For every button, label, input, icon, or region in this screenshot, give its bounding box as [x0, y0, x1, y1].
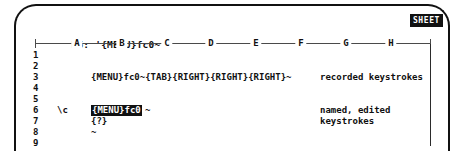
- cell-b7[interactable]: {?}: [91, 116, 107, 127]
- column-header-a[interactable]: A: [71, 37, 82, 49]
- cell-b8[interactable]: ~: [91, 127, 96, 138]
- annotation-named-edited: named, edited: [320, 105, 390, 116]
- column-header-h[interactable]: H: [385, 37, 396, 49]
- column-header-d[interactable]: D: [205, 37, 216, 49]
- worksheet-grid[interactable]: A B C D E F G H 1 2 3 4 5 6 7 8 9 {MENU}…: [33, 38, 433, 146]
- annotation-recorded-keystrokes: recorded keystrokes: [320, 72, 423, 83]
- column-header-b[interactable]: B: [116, 37, 127, 49]
- column-header-e[interactable]: E: [250, 37, 261, 49]
- cell-b6-selected[interactable]: {MENU}fc0: [91, 105, 142, 116]
- cell-b3[interactable]: {MENU}fc0~{TAB}{RIGHT}{RIGHT}{RIGHT}~: [91, 72, 291, 83]
- column-header-row: A B C D E F G H: [33, 38, 433, 50]
- column-header-left-tick: [35, 39, 36, 48]
- worksheet-cells: {MENU}fc0~{TAB}{RIGHT}{RIGHT}{RIGHT}~ \c…: [33, 50, 433, 146]
- control-panel: B6: '{MENU}fc0~: [33, 14, 393, 27]
- mode-indicator-badge: SHEET: [410, 14, 443, 27]
- column-header-g[interactable]: G: [340, 37, 351, 49]
- spreadsheet-screen: B6: '{MENU}fc0~ SHEET A B C D E F G H 1 …: [0, 0, 464, 151]
- cell-a6[interactable]: \c: [57, 105, 68, 116]
- cell-b6-text: {MENU}fc0: [92, 105, 141, 115]
- annotation-keystrokes: keystrokes: [320, 116, 374, 127]
- column-header-rule: [35, 43, 431, 44]
- column-header-f[interactable]: F: [295, 37, 306, 49]
- cell-b6-trailing-tilde: ~: [145, 105, 150, 116]
- column-header-c[interactable]: C: [161, 37, 172, 49]
